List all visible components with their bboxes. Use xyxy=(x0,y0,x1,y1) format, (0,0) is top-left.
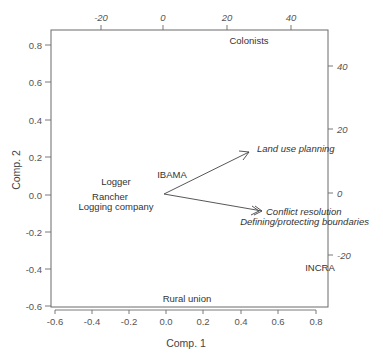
y-axis-title: Comp. 2 xyxy=(10,150,22,190)
y-tick-label: -0.4 xyxy=(26,264,42,275)
x-tick-label: 0.0 xyxy=(159,316,172,327)
label-logger: Logger xyxy=(101,176,131,187)
top-tick-label: -20 xyxy=(94,12,108,23)
right-tick-label: 0 xyxy=(337,188,343,199)
y-axis-right: 40200-20 xyxy=(328,61,351,261)
x-tick-label: -0.6 xyxy=(47,316,63,327)
x-tick-label: -0.4 xyxy=(84,316,100,327)
x-axis-bottom: -0.6-0.4-0.20.00.20.40.60.8 xyxy=(47,310,323,327)
y-tick-label: -0.2 xyxy=(26,227,42,238)
vector-conflict-resolution xyxy=(164,194,262,211)
y-axis-left: 0.80.60.40.20.0-0.2-0.4-0.6 xyxy=(26,40,51,312)
label-land-use-planning: Land use planning xyxy=(257,143,335,154)
x-axis-top: -2002040 xyxy=(94,12,297,30)
y-tick-label: 0.8 xyxy=(29,40,42,51)
right-tick-label: 40 xyxy=(337,61,348,72)
label-defining-boundaries: Defining/protecting boundaries xyxy=(240,216,369,227)
label-incra: INCRA xyxy=(305,262,335,273)
x-tick-label: 0.6 xyxy=(271,316,284,327)
label-logging-company: Logging company xyxy=(79,201,154,212)
plot-frame xyxy=(51,30,328,307)
y-tick-label: 0.6 xyxy=(29,77,42,88)
x-axis-title: Comp. 1 xyxy=(166,337,206,349)
biplot-chart: -0.6-0.4-0.20.00.20.40.60.8 0.80.60.40.2… xyxy=(0,0,383,361)
x-tick-label: 0.2 xyxy=(196,316,209,327)
loading-vectors xyxy=(164,151,262,215)
right-tick-label: -20 xyxy=(337,250,351,261)
x-tick-label: -0.2 xyxy=(121,316,137,327)
arrowhead-icon xyxy=(251,206,259,215)
label-colonists: Colonists xyxy=(229,35,268,46)
y-tick-label: 0.0 xyxy=(29,190,42,201)
y-tick-label: 0.2 xyxy=(29,152,42,163)
label-rural-union: Rural union xyxy=(163,293,212,304)
x-tick-label: 0.8 xyxy=(309,316,322,327)
top-tick-label: 40 xyxy=(286,12,297,23)
y-tick-label: -0.6 xyxy=(26,301,42,312)
x-tick-label: 0.4 xyxy=(234,316,247,327)
top-tick-label: 20 xyxy=(221,12,233,23)
y-tick-label: 0.4 xyxy=(29,115,42,126)
top-tick-label: 0 xyxy=(160,12,166,23)
label-ibama: IBAMA xyxy=(157,169,187,180)
right-tick-label: 20 xyxy=(336,124,348,135)
